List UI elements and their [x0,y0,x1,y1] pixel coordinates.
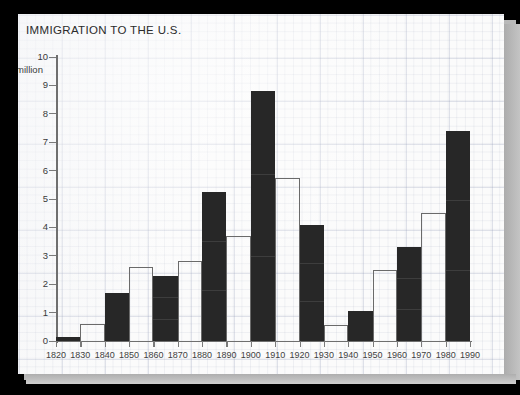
y-axis-tick [49,57,56,58]
x-axis-line [56,341,472,342]
x-axis-tick [153,341,154,347]
x-axis-tick [275,341,276,347]
y-axis-tick-label: 6 [18,165,48,176]
screenshot-stage: IMMIGRATION TO THE U.S. million 10987654… [0,0,520,395]
x-axis-tick [129,341,130,347]
scan-streak [300,301,324,302]
x-axis-tick [226,341,227,347]
bar [300,225,324,341]
x-axis-tick [80,341,81,347]
x-axis-tick [324,341,325,347]
scan-streak [202,290,226,291]
bar [153,276,177,341]
y-axis-tick [49,85,56,86]
bar [226,236,250,341]
x-axis-tick [56,341,57,347]
x-axis-tick [300,341,301,347]
bar [105,293,129,341]
bar [446,131,470,341]
bar [251,91,275,341]
y-axis-tick-label: 9 [18,79,48,90]
bar [80,324,104,341]
bar [56,337,80,341]
y-axis-tick-label: 10 [18,51,48,62]
x-axis-tick [202,341,203,347]
x-axis-tick [105,341,106,347]
y-axis-tick-label: 4 [18,221,48,232]
y-axis-tick-label: 8 [18,108,48,119]
y-axis-tick-label: 3 [18,250,48,261]
x-axis-tick-label: 1990 [455,350,485,360]
scan-streak [397,309,421,310]
scan-streak [397,278,421,279]
bar [178,261,202,341]
bar [202,192,226,341]
x-axis-tick [421,341,422,347]
y-axis-tick-label: 0 [18,335,48,346]
bar [421,213,445,341]
chart-title: IMMIGRATION TO THE U.S. [26,24,181,36]
y-axis-tick [49,255,56,256]
y-axis-tick-label: 2 [18,278,48,289]
x-axis-tick [446,341,447,347]
x-axis-tick [348,341,349,347]
x-axis-tick [397,341,398,347]
y-axis-tick [49,113,56,114]
scan-streak [300,263,324,264]
y-axis-tick-label: 5 [18,193,48,204]
graph-paper-sheet: IMMIGRATION TO THE U.S. million 10987654… [18,14,504,374]
bar [129,267,153,341]
scan-streak [251,174,275,175]
y-axis-tick [49,199,56,200]
y-axis-tick [49,284,56,285]
sheet-bottom-shadow [26,374,516,384]
y-axis-tick [49,341,56,342]
y-axis-tick [49,227,56,228]
bar [348,311,372,341]
y-axis-tick-label: 1 [18,307,48,318]
bar [275,178,299,341]
bar [397,247,421,341]
bar [324,325,348,341]
y-axis-tick [49,170,56,171]
x-axis-tick [470,341,471,347]
scan-streak [446,200,470,201]
bar [373,270,397,341]
x-axis-tick [178,341,179,347]
y-axis-tick [49,312,56,313]
plot-area [56,57,470,341]
x-axis-tick [251,341,252,347]
scan-streak [202,241,226,242]
sheet-right-shadow [502,24,520,380]
x-axis-tick [373,341,374,347]
scan-streak [153,297,177,298]
scan-streak [446,270,470,271]
scan-streak [251,256,275,257]
y-axis-unit-label: million [18,64,43,75]
y-axis-tick-label: 7 [18,136,48,147]
y-axis-tick [49,142,56,143]
scan-streak [153,319,177,320]
